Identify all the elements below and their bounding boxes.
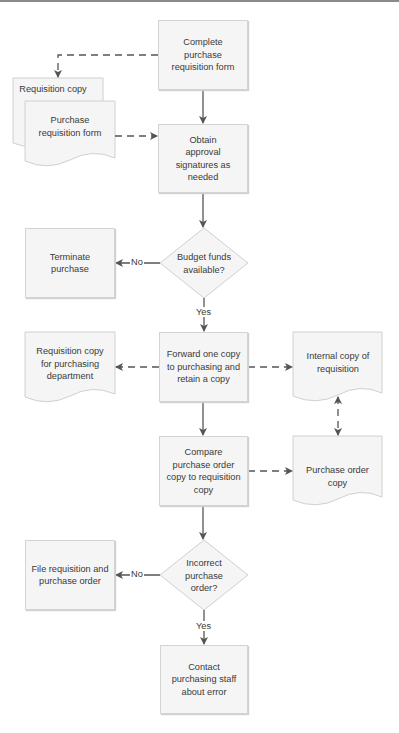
decision-incorrect-label: Incorrect purchase order? xyxy=(179,557,229,595)
edge-label-budget-no: No xyxy=(130,257,144,267)
process-label: Obtain approval signatures as needed xyxy=(164,134,242,184)
doc-label-purchase-req-form: Purchase requisition form xyxy=(25,114,115,139)
edge-label-incorrect-yes: Yes xyxy=(195,621,212,631)
decision-budget-label: Budget funds available? xyxy=(175,251,233,276)
process-complete-form: Complete purchase requisition form xyxy=(158,20,248,90)
edge-label-incorrect-no: No xyxy=(130,569,144,579)
process-label: File requisition and purchase order xyxy=(31,563,109,588)
process-compare: Compare purchase order copy to requisiti… xyxy=(159,436,248,506)
process-file: File requisition and purchase order xyxy=(25,540,115,610)
process-obtain-approval: Obtain approval signatures as needed xyxy=(158,124,248,193)
process-label: Forward one copy to purchasing and retai… xyxy=(165,348,242,386)
doc-label-requisition-copy: Requisition copy xyxy=(13,83,93,96)
doc-label-internal-copy: Internal copy of requisition xyxy=(300,350,376,375)
process-label: Contact purchasing staff about error xyxy=(166,661,242,699)
process-terminate: Terminate purchase xyxy=(25,228,115,298)
process-contact: Contact purchasing staff about error xyxy=(160,645,248,714)
process-forward-copy: Forward one copy to purchasing and retai… xyxy=(159,332,248,402)
process-label: Complete purchase requisition form xyxy=(164,36,242,74)
doc-label-po-copy: Purchase order copy xyxy=(293,464,382,489)
process-label: Compare purchase order copy to requisiti… xyxy=(165,446,242,496)
doc-label-req-copy-purchasing: Requisition copy for purchasing departme… xyxy=(27,345,113,383)
edge-complete-to-requisition-copy xyxy=(58,55,158,77)
edge-label-budget-yes: Yes xyxy=(195,307,212,317)
process-label: Terminate purchase xyxy=(31,251,109,276)
